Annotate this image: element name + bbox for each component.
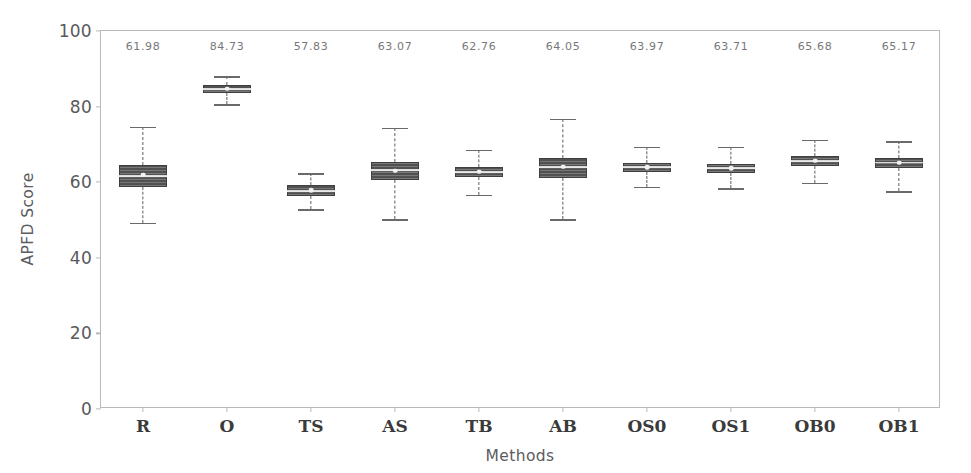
x-tick-mark bbox=[646, 407, 647, 412]
mean-marker bbox=[141, 172, 146, 177]
x-tick-label-o: O bbox=[220, 416, 235, 436]
cap-lower bbox=[466, 195, 492, 196]
whisker-upper bbox=[142, 127, 143, 165]
mean-marker bbox=[897, 160, 902, 165]
whisker-lower bbox=[226, 93, 227, 104]
cap-lower bbox=[298, 209, 324, 210]
value-label-o: 84.73 bbox=[210, 40, 245, 53]
mean-marker bbox=[729, 166, 734, 171]
x-tick-label-tb: TB bbox=[465, 416, 492, 436]
mean-marker bbox=[309, 188, 314, 193]
x-axis-title: Methods bbox=[485, 447, 554, 465]
whisker-lower bbox=[478, 177, 479, 195]
value-label-tb: 62.76 bbox=[462, 40, 497, 53]
value-label-ab: 64.05 bbox=[546, 40, 581, 53]
x-tick-label-os1: OS1 bbox=[712, 416, 751, 436]
whisker-upper bbox=[730, 147, 731, 164]
x-tick-mark bbox=[814, 407, 815, 412]
cap-lower bbox=[886, 191, 912, 192]
whisker-lower bbox=[814, 166, 815, 183]
x-tick-mark bbox=[898, 407, 899, 412]
whisker-lower bbox=[646, 172, 647, 186]
plot-area: 020406080100 ROTSASTBABOS0OS1OB0OB1 61.9… bbox=[100, 30, 940, 408]
y-tick-label: 40 bbox=[70, 248, 101, 268]
whisker-lower bbox=[562, 178, 563, 219]
cap-lower bbox=[718, 188, 744, 189]
x-tick-mark bbox=[310, 407, 311, 412]
mean-marker bbox=[813, 158, 818, 163]
x-tick-label-ob1: OB1 bbox=[878, 416, 919, 436]
cap-upper bbox=[718, 147, 744, 148]
cap-upper bbox=[214, 76, 240, 77]
mean-marker bbox=[645, 165, 650, 170]
x-tick-mark bbox=[226, 407, 227, 412]
boxplot-figure: APFD Score Methods 020406080100 ROTSASTB… bbox=[0, 0, 971, 473]
cap-upper bbox=[802, 140, 828, 141]
x-tick-label-os0: OS0 bbox=[628, 416, 667, 436]
y-tick-label: 20 bbox=[70, 323, 101, 343]
whisker-upper bbox=[646, 147, 647, 163]
value-label-os0: 63.97 bbox=[630, 40, 665, 53]
mean-marker bbox=[561, 165, 566, 170]
x-tick-mark bbox=[478, 407, 479, 412]
value-label-ob0: 65.68 bbox=[798, 40, 833, 53]
whisker-lower bbox=[142, 187, 143, 223]
whisker-upper bbox=[394, 128, 395, 162]
cap-lower bbox=[802, 183, 828, 184]
whisker-upper bbox=[478, 150, 479, 167]
x-tick-label-ob0: OB0 bbox=[794, 416, 835, 436]
whisker-upper bbox=[898, 141, 899, 157]
cap-lower bbox=[634, 187, 660, 188]
x-tick-mark bbox=[142, 407, 143, 412]
cap-upper bbox=[550, 119, 576, 120]
value-label-ts: 57.83 bbox=[294, 40, 329, 53]
cap-upper bbox=[382, 128, 408, 129]
x-tick-mark bbox=[394, 407, 395, 412]
mean-marker bbox=[393, 168, 398, 173]
x-tick-label-r: R bbox=[136, 416, 150, 436]
cap-lower bbox=[214, 104, 240, 105]
mean-marker bbox=[225, 86, 230, 91]
x-tick-label-ab: AB bbox=[549, 416, 577, 436]
whisker-upper bbox=[310, 173, 311, 185]
whisker-lower bbox=[394, 180, 395, 220]
y-tick-label: 80 bbox=[70, 97, 101, 117]
y-tick-label: 100 bbox=[59, 21, 101, 41]
whisker-lower bbox=[898, 168, 899, 191]
y-tick-label: 60 bbox=[70, 172, 101, 192]
cap-upper bbox=[466, 150, 492, 151]
x-tick-mark bbox=[730, 407, 731, 412]
whisker-lower bbox=[310, 196, 311, 210]
x-tick-label-ts: TS bbox=[299, 416, 324, 436]
value-label-ob1: 65.17 bbox=[882, 40, 917, 53]
whisker-lower bbox=[730, 173, 731, 188]
x-tick-mark bbox=[562, 407, 563, 412]
cap-lower bbox=[550, 219, 576, 220]
cap-upper bbox=[634, 147, 660, 148]
x-tick-label-as: AS bbox=[382, 416, 407, 436]
mean-marker bbox=[477, 169, 482, 174]
cap-lower bbox=[382, 219, 408, 220]
whisker-upper bbox=[814, 140, 815, 156]
cap-upper bbox=[298, 173, 324, 174]
cap-upper bbox=[886, 141, 912, 142]
value-label-as: 63.07 bbox=[378, 40, 413, 53]
cap-upper bbox=[130, 127, 156, 128]
y-axis-title: APFD Score bbox=[19, 172, 37, 265]
cap-lower bbox=[130, 223, 156, 224]
value-label-r: 61.98 bbox=[126, 40, 161, 53]
whisker-upper bbox=[562, 119, 563, 158]
y-tick-label: 0 bbox=[81, 399, 101, 419]
value-label-os1: 63.71 bbox=[714, 40, 749, 53]
